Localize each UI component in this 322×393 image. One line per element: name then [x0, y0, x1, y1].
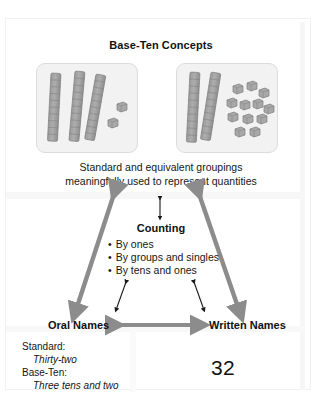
unit-cube	[117, 102, 127, 112]
written-numeral: 32	[211, 356, 235, 380]
counting-list-item: By groups and singles	[108, 251, 219, 264]
counting-list-item: By tens and ones	[108, 264, 219, 277]
counting-title: Counting	[0, 222, 322, 234]
unit-cube-cluster	[227, 81, 274, 137]
page-edge-strip	[300, 22, 305, 390]
unit-cube	[235, 127, 245, 137]
base-ten-concepts-diagram: Base-Ten Concepts	[0, 0, 322, 393]
ten-rod	[186, 72, 200, 142]
unit-cube	[264, 104, 274, 114]
unit-cube	[228, 112, 238, 122]
ten-rod	[47, 73, 61, 141]
caption-line-1: Standard and equivalent groupings	[0, 161, 322, 175]
unit-cube	[240, 100, 250, 110]
standard-lead: Standard:	[22, 341, 65, 352]
counting-list-item: By ones	[108, 238, 219, 251]
unit-cube	[243, 114, 253, 124]
unit-cube	[108, 118, 118, 128]
ten-rod	[69, 71, 85, 142]
baseten-value: Three tens and two	[22, 379, 119, 392]
written-names-label: Written Names	[209, 319, 286, 331]
oral-names-detail: Standard: Thirty-two Base-Ten: Three ten…	[22, 340, 119, 392]
unit-cube	[257, 114, 267, 124]
page-title: Base-Ten Concepts	[0, 39, 322, 51]
baseten-lead: Base-Ten:	[22, 367, 67, 378]
oral-names-label: Oral Names	[48, 319, 109, 331]
unit-cube	[250, 127, 260, 137]
equivalent-grouping-panel	[176, 63, 278, 153]
scan-band-middle	[6, 192, 304, 199]
unit-cube	[247, 81, 257, 91]
base-ten-blocks-right	[177, 64, 277, 152]
base-ten-blocks-left	[37, 64, 137, 152]
ten-rod	[85, 74, 106, 141]
standard-value: Thirty-two	[22, 353, 119, 366]
unit-cube	[259, 88, 269, 98]
unit-cube	[227, 98, 237, 108]
caption-line-2: meaningfully used to represent quantitie…	[0, 175, 322, 189]
standard-grouping-panel	[36, 63, 138, 153]
ten-rod	[200, 72, 221, 141]
model-caption: Standard and equivalent groupings meanin…	[0, 161, 322, 188]
unit-cube	[253, 99, 263, 109]
counting-list: By ones By groups and singles By tens an…	[108, 238, 219, 277]
scan-band-vertical	[130, 330, 136, 392]
unit-cube	[233, 84, 243, 94]
